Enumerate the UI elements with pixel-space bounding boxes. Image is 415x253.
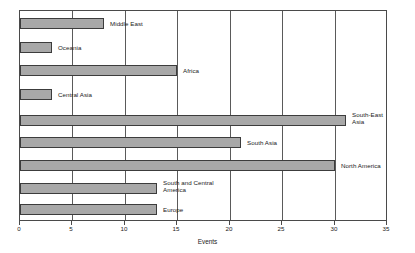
bar-label-south-east-asia: South-East Asia	[352, 111, 383, 126]
bar-label-central-asia: Central Asia	[58, 91, 92, 98]
bar-label-line: South-East	[352, 111, 383, 118]
bar-label-line: Middle East	[110, 20, 143, 27]
bar-label-oceania: Oceania	[58, 44, 81, 51]
tick-label-35: 35	[376, 225, 396, 233]
bar-label-line: South and Central	[163, 179, 214, 186]
plot-area: Middle East Oceania Africa Central Asia	[19, 10, 387, 221]
bar-label-south-and-central-america: South and Central America	[163, 179, 214, 194]
bar-label-line: North America	[341, 162, 381, 169]
bar-label-line: Africa	[183, 67, 199, 74]
tick-label-25: 25	[271, 225, 291, 233]
bar-oceania[interactable]	[20, 42, 52, 53]
bar-label-africa: Africa	[183, 67, 199, 74]
bar-chart: Middle East Oceania Africa Central Asia	[0, 0, 415, 253]
tick-label-30: 30	[324, 225, 344, 233]
bar-label-europe: Europe	[163, 206, 183, 213]
bar-central-asia[interactable]	[20, 89, 52, 100]
bar-europe[interactable]	[20, 204, 157, 215]
bar-label-north-america: North America	[341, 162, 381, 169]
tick-label-5: 5	[61, 225, 81, 233]
bar-middle-east[interactable]	[20, 18, 104, 29]
bar-label-line: Asia	[352, 118, 383, 125]
bar-label-south-asia: South Asia	[247, 139, 277, 146]
tick-label-15: 15	[166, 225, 186, 233]
bar-south-east-asia[interactable]	[20, 115, 346, 126]
tick-label-10: 10	[114, 225, 134, 233]
bar-label-line: Oceania	[58, 44, 81, 51]
x-axis-title: Events	[0, 238, 415, 245]
tick-label-0: 0	[9, 225, 29, 233]
tick-label-20: 20	[219, 225, 239, 233]
bar-label-line: Europe	[163, 206, 183, 213]
bar-label-line: South Asia	[247, 139, 277, 146]
bar-label-line: Central Asia	[58, 91, 92, 98]
bar-africa[interactable]	[20, 65, 177, 76]
bar-north-america[interactable]	[20, 160, 335, 171]
bar-south-asia[interactable]	[20, 137, 241, 148]
bar-label-line: America	[163, 186, 214, 193]
bar-label-middle-east: Middle East	[110, 20, 143, 27]
bar-south-and-central-america[interactable]	[20, 183, 157, 194]
